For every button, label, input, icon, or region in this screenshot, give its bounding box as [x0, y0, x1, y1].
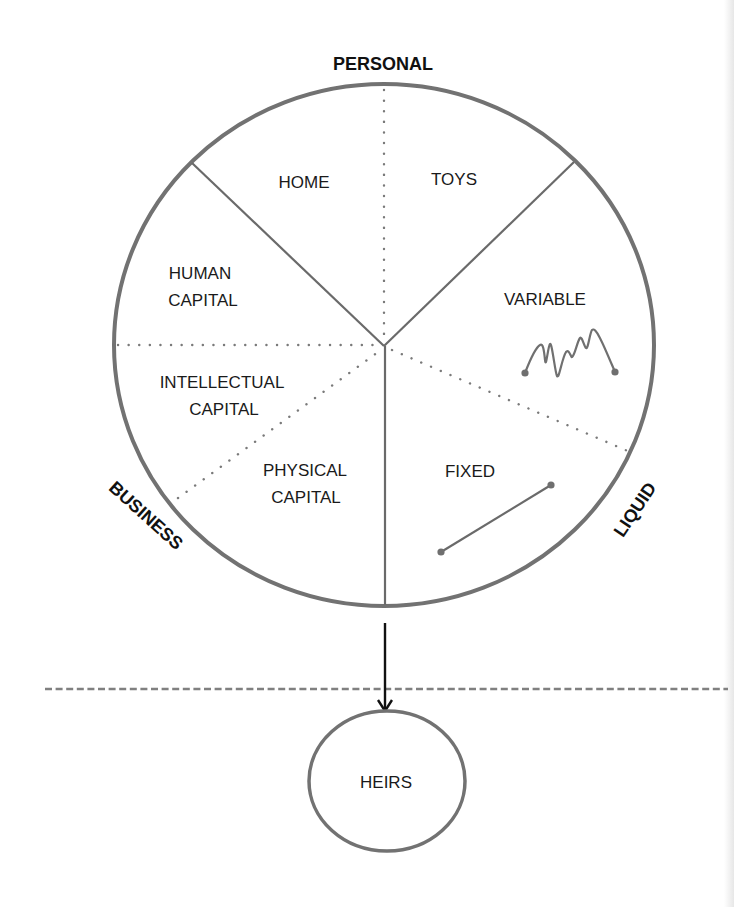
segment-fixed: FIXED — [445, 462, 495, 481]
label-personal: PERSONAL — [333, 54, 433, 74]
segment-physical-capital-line1: PHYSICAL — [263, 461, 347, 480]
segment-human-capital-line1: HUMAN — [169, 264, 231, 283]
wealth-diagram: PERSONAL BUSINESS LIQUID HOME TOYS VARIA… — [0, 0, 734, 907]
segment-intellectual-capital-line1: INTELLECTUAL — [160, 373, 285, 392]
label-liquid: LIQUID — [610, 479, 661, 541]
segment-toys: TOYS — [431, 170, 477, 189]
segment-home: HOME — [279, 173, 330, 192]
arrow-to-heirs — [378, 623, 392, 711]
segment-physical-capital-line2: CAPITAL — [271, 488, 341, 507]
segment-human-capital-line2: CAPITAL — [168, 291, 238, 310]
heirs-label: HEIRS — [360, 773, 412, 792]
segment-intellectual-capital-line2: CAPITAL — [189, 400, 259, 419]
segment-variable: VARIABLE — [504, 290, 586, 309]
